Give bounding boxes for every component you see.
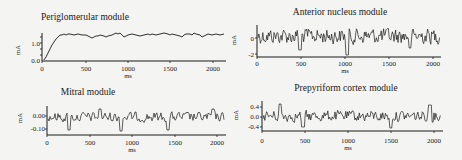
y-tick-label: 0.00 — [33, 112, 46, 120]
y-tick-label: 0 — [251, 35, 255, 43]
y-tick-label: -0.4 — [248, 123, 260, 131]
y-axis-label: mA — [16, 113, 23, 123]
x-axis-label: ms — [341, 67, 349, 74]
chart-title: Anterior nucleus module — [293, 7, 387, 17]
x-ticks — [255, 38, 433, 59]
x-tick-label: 500 — [300, 137, 311, 145]
x-axis-label: ms — [128, 146, 136, 153]
x-tick-label: 500 — [296, 60, 307, 68]
x-tick-label: 0 — [40, 65, 44, 73]
x-ticks — [40, 37, 213, 63]
data-noise — [48, 109, 224, 131]
panel-periglomerular: Periglomerular module mA 1.0 0.0 0 500 1… — [14, 12, 226, 79]
x-tick-label: 2000 — [427, 137, 442, 145]
x-tick-label: 2000 — [426, 60, 441, 68]
y-tick-label: -2 — [248, 51, 254, 59]
y-axis-label: mA — [232, 110, 239, 120]
x-tick-label: 1500 — [163, 65, 178, 73]
y-tick-label: 0.0 — [31, 57, 40, 65]
x-tick-label: 1500 — [168, 139, 183, 147]
y-tick-label: -0.10 — [30, 125, 45, 133]
x-tick-label: 500 — [81, 65, 92, 73]
x-axis-label: ms — [344, 144, 352, 151]
data-noise — [263, 104, 440, 128]
data-noise — [258, 29, 440, 56]
data-line — [44, 33, 224, 60]
y-axis-label: mA — [230, 35, 237, 45]
x-tick-label: 1500 — [384, 137, 399, 145]
figure: Periglomerular module mA 1.0 0.0 0 500 1… — [0, 0, 462, 160]
chart-title: Periglomerular module — [41, 12, 129, 22]
x-tick-label: 0 — [255, 60, 259, 68]
panel-mitral: Mitral module mA 0.00 -0.10 0 500 1000 1… — [16, 87, 226, 153]
y-tick-label: 1.0 — [31, 40, 40, 48]
x-tick-label: 2000 — [210, 139, 225, 147]
y-tick-label: 0.0 — [250, 113, 259, 121]
x-tick-label: 1500 — [382, 60, 397, 68]
chart-title: Prepyriform cortex module — [294, 83, 397, 93]
x-tick-label: 0 — [260, 137, 264, 145]
x-tick-label: 0 — [45, 139, 49, 147]
panel-prepyriform-cortex: Prepyriform cortex module mA 0.4 0.0 -0.… — [232, 83, 443, 151]
x-ticks — [260, 107, 434, 133]
x-tick-label: 500 — [85, 139, 96, 147]
x-axis-label: ms — [124, 72, 132, 79]
x-tick-label: 2000 — [206, 65, 221, 73]
chart-title: Mitral module — [61, 87, 116, 97]
panel-anterior-nucleus: Anterior nucleus module mA 0 -2 0 500 10… — [230, 7, 441, 74]
y-axis-label: mA — [14, 45, 21, 55]
y-tick-label: 0.4 — [250, 103, 259, 111]
